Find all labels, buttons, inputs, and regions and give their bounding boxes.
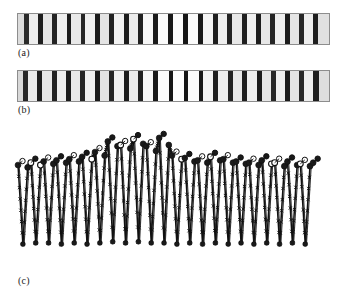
barcode-stripe: [247, 71, 257, 101]
caption-b: (b): [18, 104, 30, 115]
barcode-stripe: [43, 14, 52, 44]
barcode-stripe: [290, 14, 299, 44]
barcode-stripe: [290, 71, 299, 101]
barcode-stripe: [29, 14, 38, 44]
barcode-stripe: [318, 14, 329, 44]
profile-plot-svg: [8, 118, 336, 278]
barcode-stripe: [188, 14, 198, 44]
caption-c: (c): [18, 275, 30, 286]
barcode-stripe: [261, 14, 270, 44]
barcode-stripe: [203, 71, 213, 101]
barcode-stripe: [275, 14, 285, 44]
barcode-stripe: [276, 71, 286, 101]
barcode-stripe: [71, 14, 80, 44]
barcode-stripe: [247, 14, 257, 44]
barcode-stripe: [28, 71, 37, 101]
barcode-stripe: [129, 71, 138, 101]
barcode-stripe: [173, 71, 184, 101]
barcode-stripe: [85, 14, 95, 44]
barcode-stripe: [233, 71, 242, 101]
barcode-stripe: [143, 14, 153, 44]
barcode-stripe: [158, 14, 168, 44]
barcode-stripes-a: [18, 14, 329, 44]
barcode-stripe: [42, 71, 51, 101]
barcode-stripe: [319, 71, 329, 101]
barcode-stripe: [304, 14, 314, 44]
barcode-stripe: [57, 71, 66, 101]
barcode-stripe: [232, 14, 241, 44]
barcode-stripe: [203, 14, 213, 44]
barcode-stripe: [173, 14, 184, 44]
barcode-stripe: [85, 71, 95, 101]
barcode-stripe: [57, 14, 67, 44]
barcode-stripe: [100, 14, 109, 44]
barcode-stripe: [188, 71, 199, 101]
figure-container: (a) (b) (c): [0, 0, 344, 296]
barcode-stripe: [129, 14, 138, 44]
barcode-stripe: [114, 14, 124, 44]
barcode-stripe: [114, 71, 124, 101]
barcode-stripe: [143, 71, 153, 101]
barcode-stripes-b: [18, 71, 329, 101]
barcode-strip-b: [17, 70, 330, 102]
caption-a: (a): [18, 47, 30, 58]
barcode-stripe: [218, 14, 228, 44]
barcode-stripe: [304, 71, 313, 101]
barcode-stripe: [158, 71, 169, 101]
barcode-stripe: [100, 71, 109, 101]
barcode-strip-a: [17, 13, 330, 45]
barcode-stripe: [262, 71, 271, 101]
profile-plot-c: [8, 118, 336, 278]
barcode-stripe: [71, 71, 80, 101]
barcode-stripe: [218, 71, 227, 101]
